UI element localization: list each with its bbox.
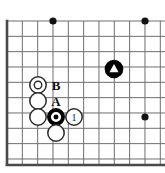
point-labels: BA [51,78,61,109]
star-point-right [141,113,148,120]
star-point-upper-left [49,17,56,24]
point-label-a: A [51,94,61,109]
point-label-b: B [52,78,61,93]
go-board-diagram: 1BA [0,0,165,173]
star-point-upper-right [141,17,148,24]
white-stone-bottom[interactable] [48,125,64,141]
white-stone-disc [48,125,64,141]
black-stone-disc [48,109,64,125]
white-stone-marked-circle[interactable] [30,77,46,93]
black-stone-marked-circle[interactable] [48,109,64,125]
white-stone-lower-left[interactable] [30,109,46,125]
white-stone-upper-middle[interactable] [30,93,46,109]
grid-lines [7,21,165,165]
black-stone-marked-triangle[interactable] [105,60,122,77]
go-board-canvas[interactable]: 1BA [0,0,165,173]
white-stone-move-1[interactable]: 1 [66,109,82,125]
white-stone-disc [30,109,46,125]
white-stone-disc [30,77,46,93]
stone-move-number: 1 [72,112,77,123]
white-stone-disc [30,93,46,109]
stones: 1 [30,60,123,141]
